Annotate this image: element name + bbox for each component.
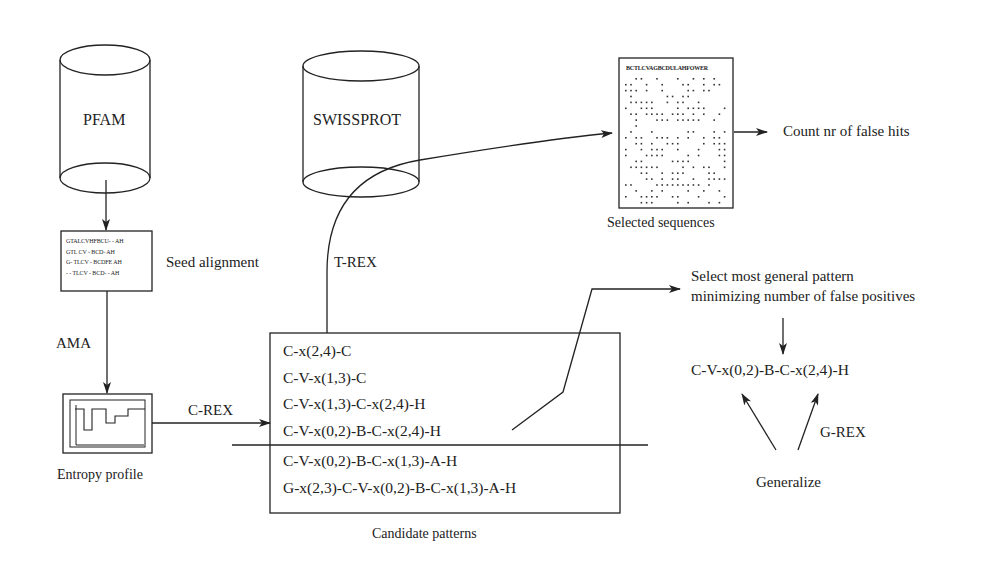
candidate-patterns-label: Candidate patterns bbox=[372, 527, 477, 541]
entropy-profile-label: Entropy profile bbox=[57, 468, 143, 482]
seed-row: GTL CV - BCD- AH bbox=[66, 247, 150, 258]
seed-alignment-label: Seed alignment bbox=[166, 255, 259, 270]
selected-sequences-label: Selected sequences bbox=[607, 216, 715, 230]
chosen-pattern: C-V-x(0,2)-B-C-x(2,4)-H bbox=[691, 362, 849, 378]
sequence-matrix bbox=[625, 78, 725, 204]
candidate-pattern: C-V-x(0,2)-B-C-x(1,3)-A-H bbox=[283, 453, 457, 469]
generalize-arrow-right bbox=[798, 394, 818, 450]
entropy-profile-icon bbox=[63, 394, 152, 453]
select-arrow bbox=[512, 289, 680, 430]
generalize-arrow-left bbox=[742, 394, 776, 450]
t-rex-label: T-REX bbox=[334, 255, 377, 270]
seed-row: - - TLCV - BCD- - AH bbox=[66, 268, 150, 279]
selected-sequences-box bbox=[619, 58, 733, 208]
candidate-pattern: C-V-x(0,2)-B-C-x(2,4)-H bbox=[283, 423, 441, 439]
c-rex-label: C-REX bbox=[188, 403, 233, 418]
candidate-pattern: C-V-x(1,3)-C-x(2,4)-H bbox=[283, 396, 425, 412]
selected-sequences-header: BCTLCVAGBCDULAHFOWER bbox=[626, 65, 730, 71]
seed-row: GTALCVHFBCU- - AH bbox=[66, 236, 150, 247]
ama-label: AMA bbox=[56, 336, 91, 351]
candidate-pattern: C-x(2,4)-C bbox=[283, 343, 351, 359]
candidate-pattern: C-V-x(1,3)-C bbox=[283, 370, 366, 386]
seed-alignment-rows: GTALCVHFBCU- - AH GTL CV - BCD- AH G- TL… bbox=[66, 236, 150, 278]
selection-line-1: Select most general pattern bbox=[691, 269, 854, 284]
g-rex-label: G-REX bbox=[820, 425, 866, 440]
pfam-label: PFAM bbox=[83, 112, 125, 128]
generalize-label: Generalize bbox=[756, 475, 821, 490]
candidate-pattern: G-x(2,3)-C-V-x(0,2)-B-C-x(1,3)-A-H bbox=[283, 480, 516, 496]
swissprot-label: SWISSPROT bbox=[313, 112, 401, 128]
selection-line-2: minimizing number of false positives bbox=[691, 289, 915, 304]
t-rex-arrow bbox=[327, 133, 612, 333]
count-false-hits-label: Count nr of false hits bbox=[783, 124, 910, 139]
seed-row: G- TLCV - BCDFE AH bbox=[66, 257, 150, 268]
